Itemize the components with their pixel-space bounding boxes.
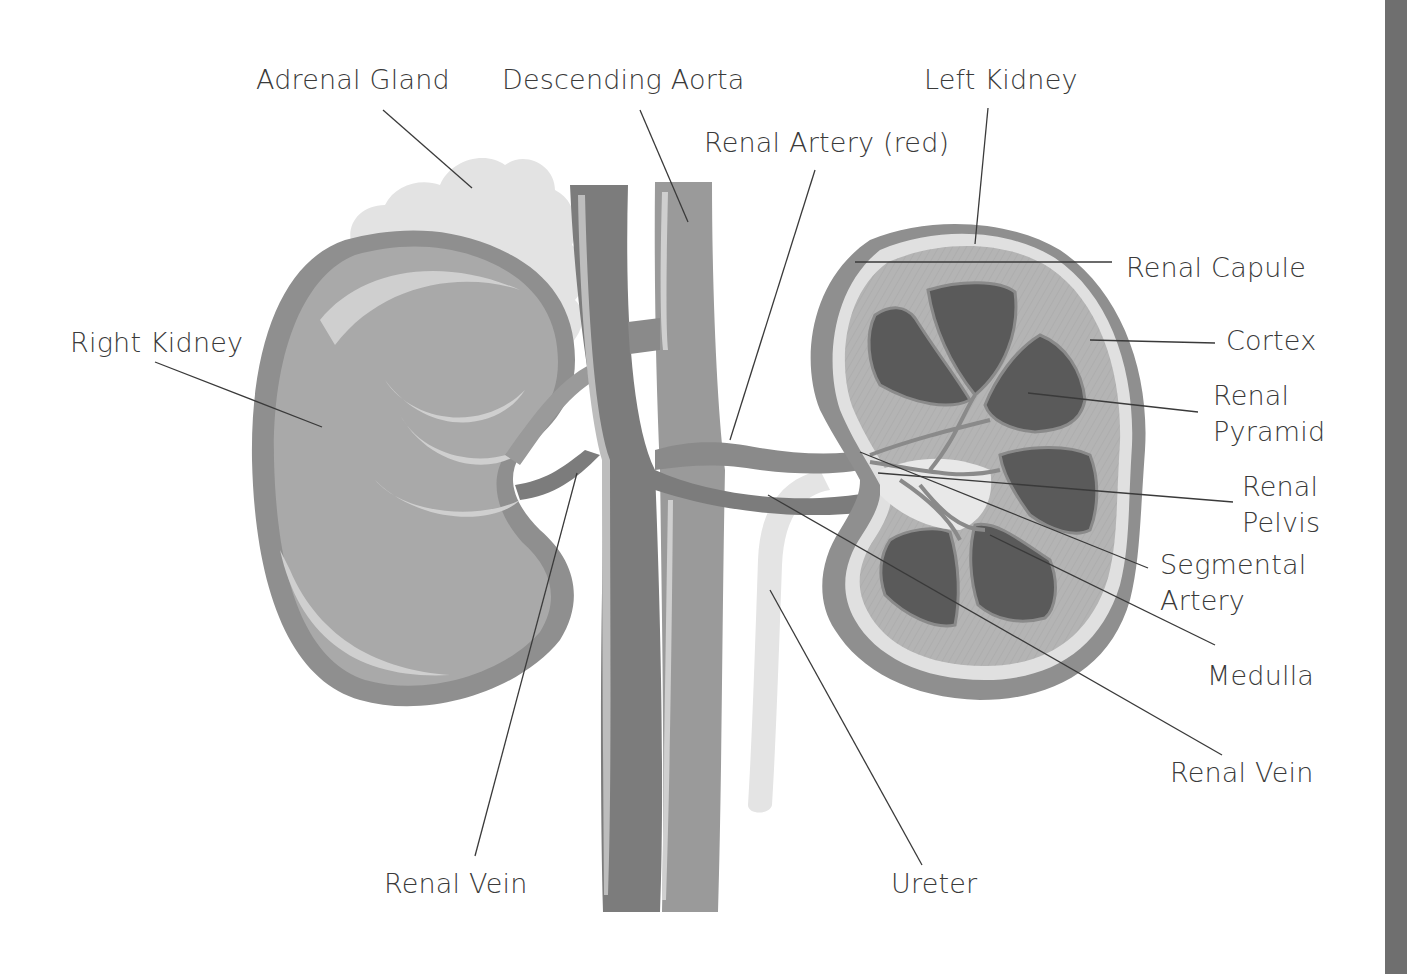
label-descending-aorta: Descending Aorta bbox=[502, 62, 745, 98]
vena-cava bbox=[570, 185, 662, 912]
vessel-connector bbox=[628, 318, 660, 354]
right-kidney bbox=[252, 230, 575, 706]
label-renal-artery: Renal Artery (red) bbox=[704, 125, 949, 161]
label-segmental-artery-line2: Artery bbox=[1160, 583, 1245, 619]
label-renal-vein-right: Renal Vein bbox=[384, 866, 528, 902]
label-cortex: Cortex bbox=[1226, 323, 1316, 359]
label-adrenal-gland: Adrenal Gland bbox=[256, 62, 450, 98]
label-renal-pyramid-line1: Renal bbox=[1213, 378, 1289, 414]
label-renal-pelvis-line1: Renal bbox=[1242, 469, 1318, 505]
label-left-kidney: Left Kidney bbox=[924, 62, 1078, 98]
label-renal-pyramid-line2: Pyramid bbox=[1213, 414, 1325, 450]
label-renal-capule: Renal Capule bbox=[1126, 250, 1306, 286]
descending-aorta bbox=[655, 182, 725, 912]
label-medulla: Medulla bbox=[1207, 658, 1314, 694]
label-segmental-artery-line1: Segmental bbox=[1160, 547, 1306, 583]
ureter bbox=[748, 470, 830, 813]
label-renal-vein-left: Renal Vein bbox=[1170, 755, 1314, 791]
label-renal-pelvis-line2: Pelvis bbox=[1242, 505, 1320, 541]
label-ureter: Ureter bbox=[891, 866, 977, 902]
edge-strip bbox=[1385, 0, 1407, 974]
label-right-kidney: Right Kidney bbox=[70, 325, 243, 361]
